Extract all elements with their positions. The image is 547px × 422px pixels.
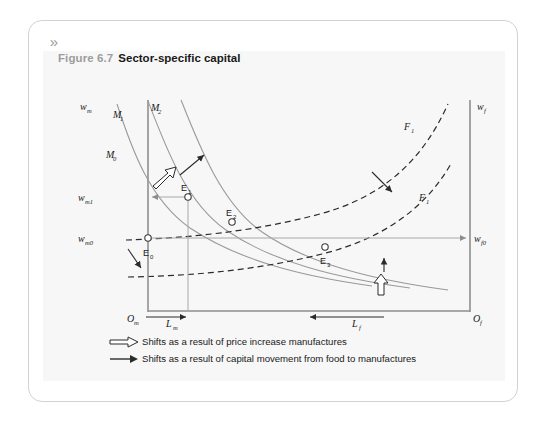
curve-label-f1-lower: F [418, 192, 426, 203]
legend-text-price-increase: Shifts as a result of price increase man… [142, 336, 347, 347]
axis-labels: w m w f w m1 w m0 w f0 O m O f L m L f [78, 101, 487, 331]
legend-row: Shifts as a result of price increase man… [108, 333, 468, 350]
solid-arrow-right-icon [108, 352, 142, 366]
figure-page: » Figure 6.7Sector-specific capital [0, 0, 547, 422]
point-e0 [145, 235, 151, 241]
tick-label-wm1-sub: m1 [85, 198, 93, 205]
axis-label-wf-sub: f [484, 107, 487, 114]
span-label-lf-sub: f [359, 324, 362, 331]
hollow-arrow-right-icon [108, 335, 142, 349]
point-label-e1: E [181, 183, 187, 193]
curve-label-f1-lower-sub: 1 [426, 198, 429, 205]
tick-label-wf0: w [474, 233, 481, 244]
tick-label-wm0-sub: m0 [85, 239, 94, 246]
point-label-e0-sub: 0 [150, 254, 154, 260]
curve-label-f1-upper-sub: 1 [411, 127, 414, 134]
point-e3 [322, 244, 328, 250]
point-label-e3: E [320, 256, 326, 266]
point-labels: E 1 E 0 E 2 E 3 [143, 183, 331, 268]
span-label-lm: L [165, 318, 172, 329]
tick-label-wf0-sub: f0 [481, 239, 487, 246]
origin-label-of-sub: f [480, 319, 483, 326]
axis-label-wm-sub: m [87, 107, 92, 114]
tick-label-wm0: w [78, 233, 85, 244]
arrow-shift-m-solid [180, 155, 204, 175]
point-label-e2: E [226, 208, 232, 218]
legend-text-capital-movement: Shifts as a result of capital movement f… [142, 353, 416, 364]
arrow-shift-m-hollow [153, 167, 176, 189]
axis-label-wm: w [80, 101, 87, 112]
origin-label-om-sub: m [134, 319, 139, 326]
legend-row: Shifts as a result of capital movement f… [108, 350, 468, 367]
m-curves [117, 100, 448, 290]
point-label-e2-sub: 2 [233, 214, 237, 220]
curve-label-f1-upper: F [403, 121, 411, 132]
span-label-lf: L [351, 318, 358, 329]
annotation-arrows [128, 155, 392, 295]
curve-m0 [117, 104, 372, 286]
point-label-e0: E [143, 248, 149, 258]
curve-label-m2-sub: 2 [158, 108, 162, 115]
axis-lines [148, 100, 470, 312]
curve-label-m1-sub: 1 [120, 115, 123, 122]
arrow-shift-f-right [372, 172, 392, 192]
equilibrium-points [145, 194, 328, 250]
curve-label-m0-sub: 0 [113, 155, 117, 162]
span-label-lm-sub: m [173, 324, 178, 331]
axis-label-wf: w [477, 101, 484, 112]
curve-f1-lower [128, 162, 452, 277]
tick-label-wm1: w [78, 192, 85, 203]
guide-lines [148, 197, 466, 311]
arrow-shift-f-left [128, 249, 141, 268]
chart-legend: Shifts as a result of price increase man… [108, 333, 468, 367]
